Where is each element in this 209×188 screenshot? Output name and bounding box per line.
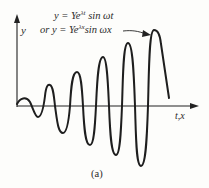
growing-oscillation-figure: y = Yeλt sin ωt or y = Yeλxsin ωx y t,x … — [0, 0, 209, 188]
equation-space-prefix: or y = Ye — [40, 24, 79, 35]
y-axis-label: y — [21, 24, 26, 36]
equation-time-prefix: y = Ye — [54, 10, 81, 21]
growing-sine-curve — [17, 30, 169, 166]
equation-space-suffix: sin ωx — [85, 24, 112, 35]
figure-caption: (a) — [91, 168, 103, 179]
x-axis-arrowhead-icon — [190, 103, 199, 109]
equation-space: or y = Yeλxsin ωx — [40, 23, 112, 35]
pointer-arrowhead-icon — [142, 30, 151, 37]
x-axis-label: t,x — [175, 110, 185, 121]
y-axis-arrowhead-icon — [14, 14, 20, 23]
equation-time-suffix: sin ωt — [86, 10, 114, 21]
equation-time: y = Yeλt sin ωt — [54, 9, 113, 21]
